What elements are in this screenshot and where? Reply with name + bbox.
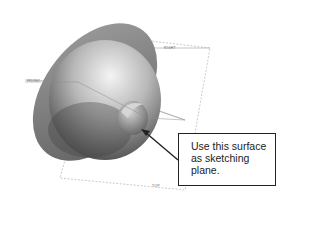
callout-line-3: plane.	[191, 164, 275, 176]
label-top-plane: TOP	[152, 184, 160, 188]
label-right-plane: RIGHT	[164, 46, 176, 50]
label-front-plane: FRONT	[27, 79, 40, 83]
bowl-lower-shadow	[48, 102, 132, 158]
callout-arrow	[145, 132, 178, 160]
callout-line-1: Use this surface	[191, 140, 275, 152]
callout-box: Use this surface as sketching plane.	[178, 133, 276, 186]
callout-line-2: as sketching	[191, 152, 275, 164]
